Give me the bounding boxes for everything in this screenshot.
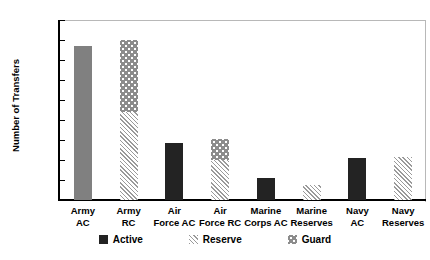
bar-group — [303, 20, 321, 200]
bar-group — [165, 20, 183, 200]
bar-segment-reserve — [394, 157, 412, 200]
bar-segment-active — [74, 46, 92, 200]
bar-segment-reserve — [211, 160, 229, 200]
x-axis-label-line: AC — [335, 217, 381, 229]
bar-segment-active — [257, 178, 275, 200]
x-axis-label: NavyAC — [335, 205, 381, 228]
x-axis-label-line: Navy — [380, 205, 426, 217]
x-axis-label: MarineCorps AC — [243, 205, 289, 228]
x-axis-label-line: Force AC — [152, 217, 198, 229]
x-axis-label-line: Army — [60, 205, 106, 217]
x-axis-label-line: Marine — [243, 205, 289, 217]
x-axis-label: NavyReserves — [380, 205, 426, 228]
x-axis-label: ArmyAC — [60, 205, 106, 228]
legend-label: Active — [113, 234, 143, 245]
x-axis-label: AirForce AC — [152, 205, 198, 228]
x-axis-label-line: Army — [106, 205, 152, 217]
x-axis-label-line: Air — [152, 205, 198, 217]
x-axis-label-line: Navy — [335, 205, 381, 217]
bar-group — [211, 20, 229, 200]
bar-segment-active — [348, 158, 366, 200]
plot-area — [60, 20, 426, 200]
x-axis-label-line: Reserves — [380, 217, 426, 229]
x-axis-label: MarineReserves — [289, 205, 335, 228]
diagonal-hatch-swatch — [189, 235, 198, 244]
dotted-swatch — [288, 235, 297, 244]
x-axis-label: ArmyRC — [106, 205, 152, 228]
legend-item: Guard — [288, 234, 331, 245]
bar-segment-active — [165, 143, 183, 200]
bar-group — [348, 20, 366, 200]
bar-group — [120, 20, 138, 200]
legend-label: Reserve — [203, 234, 242, 245]
bar-group — [74, 20, 92, 200]
x-axis-label-line: Air — [197, 205, 243, 217]
legend-item: Reserve — [189, 234, 242, 245]
x-axis-label-line: Reserves — [289, 217, 335, 229]
y-axis-tick — [60, 200, 65, 201]
bar-chart: Number of Transfers 90,00080,00070,00060… — [0, 0, 430, 260]
bar-segment-guard — [211, 139, 229, 160]
legend-label: Guard — [302, 234, 331, 245]
bar-segment-guard — [120, 40, 138, 112]
x-axis-label-line: Corps AC — [243, 217, 289, 229]
solid-dark-swatch — [99, 235, 108, 244]
bar-group — [394, 20, 412, 200]
x-axis-label-line: AC — [60, 217, 106, 229]
bar-segment-reserve — [303, 185, 321, 200]
chart-legend: ActiveReserveGuard — [0, 234, 430, 245]
x-axis-label-line: Marine — [289, 205, 335, 217]
x-axis-label-line: RC — [106, 217, 152, 229]
x-axis-label-line: Force RC — [197, 217, 243, 229]
y-axis-title: Number of Transfers — [10, 41, 21, 171]
x-axis-label: AirForce RC — [197, 205, 243, 228]
legend-item: Active — [99, 234, 143, 245]
bar-group — [257, 20, 275, 200]
bar-segment-reserve — [120, 112, 138, 200]
